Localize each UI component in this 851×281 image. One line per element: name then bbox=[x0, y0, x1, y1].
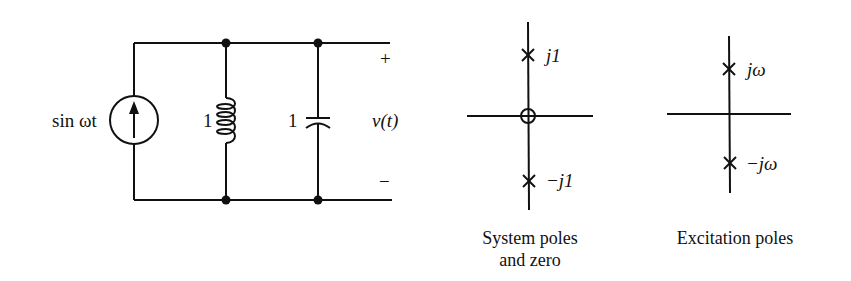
node-dot bbox=[222, 39, 231, 48]
node-dot bbox=[314, 39, 323, 48]
pole-label-upper: jω bbox=[747, 60, 766, 79]
minus-terminal: − bbox=[379, 172, 390, 191]
circuit-schematic bbox=[110, 43, 392, 200]
inductor-value: 1 bbox=[203, 111, 213, 130]
node-dot bbox=[314, 196, 323, 205]
pole-label-lower: −jω bbox=[746, 154, 778, 173]
arrow-up-icon bbox=[129, 101, 139, 114]
source-label: sin ωt bbox=[52, 111, 97, 130]
output-voltage-label: v(t) bbox=[372, 111, 398, 130]
excitation-plot-caption: Excitation poles bbox=[650, 227, 820, 249]
system-plot-caption: System poles and zero bbox=[462, 227, 598, 271]
capacitor-value: 1 bbox=[288, 111, 298, 130]
node-dot bbox=[222, 196, 231, 205]
pole-label-upper: j1 bbox=[546, 46, 561, 65]
junction-nodes bbox=[222, 39, 323, 205]
caption-line: System poles bbox=[462, 227, 598, 249]
plus-terminal: + bbox=[380, 49, 391, 68]
inductor-coil-icon bbox=[217, 98, 235, 143]
caption-line: and zero bbox=[462, 249, 598, 271]
pole-label-lower: −j1 bbox=[546, 171, 574, 190]
system-pole-zero-plot bbox=[467, 22, 593, 210]
